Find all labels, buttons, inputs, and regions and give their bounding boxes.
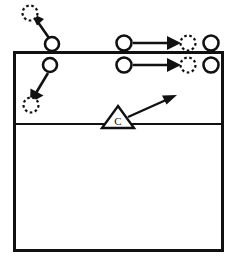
player-in-right-target	[181, 58, 196, 73]
volleyball-drill-diagram: C	[0, 0, 235, 266]
player-in-right-start	[117, 58, 132, 73]
player-out-right-extra	[204, 36, 219, 51]
player-out-right-start	[117, 36, 132, 51]
player-out-left-target	[23, 6, 38, 21]
player-in-left-target	[24, 98, 39, 113]
player-in-right-extra	[204, 58, 219, 73]
arrow-out-right	[133, 36, 181, 50]
diagram-canvas: C	[0, 0, 235, 266]
player-out-left-start	[45, 37, 59, 51]
player-in-left-start	[43, 58, 57, 72]
player-out-right-target	[181, 36, 196, 51]
court-outline	[15, 53, 223, 251]
coach-marker-label: C	[114, 115, 121, 127]
